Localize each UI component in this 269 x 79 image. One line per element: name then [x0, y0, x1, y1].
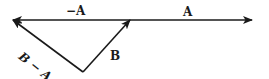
vector-diagram: −A A B B − A	[0, 0, 269, 79]
label-neg-a: −A	[66, 5, 85, 17]
vector-b-arrow	[83, 20, 130, 72]
label-b: B	[110, 50, 120, 62]
label-a: A	[183, 6, 192, 18]
